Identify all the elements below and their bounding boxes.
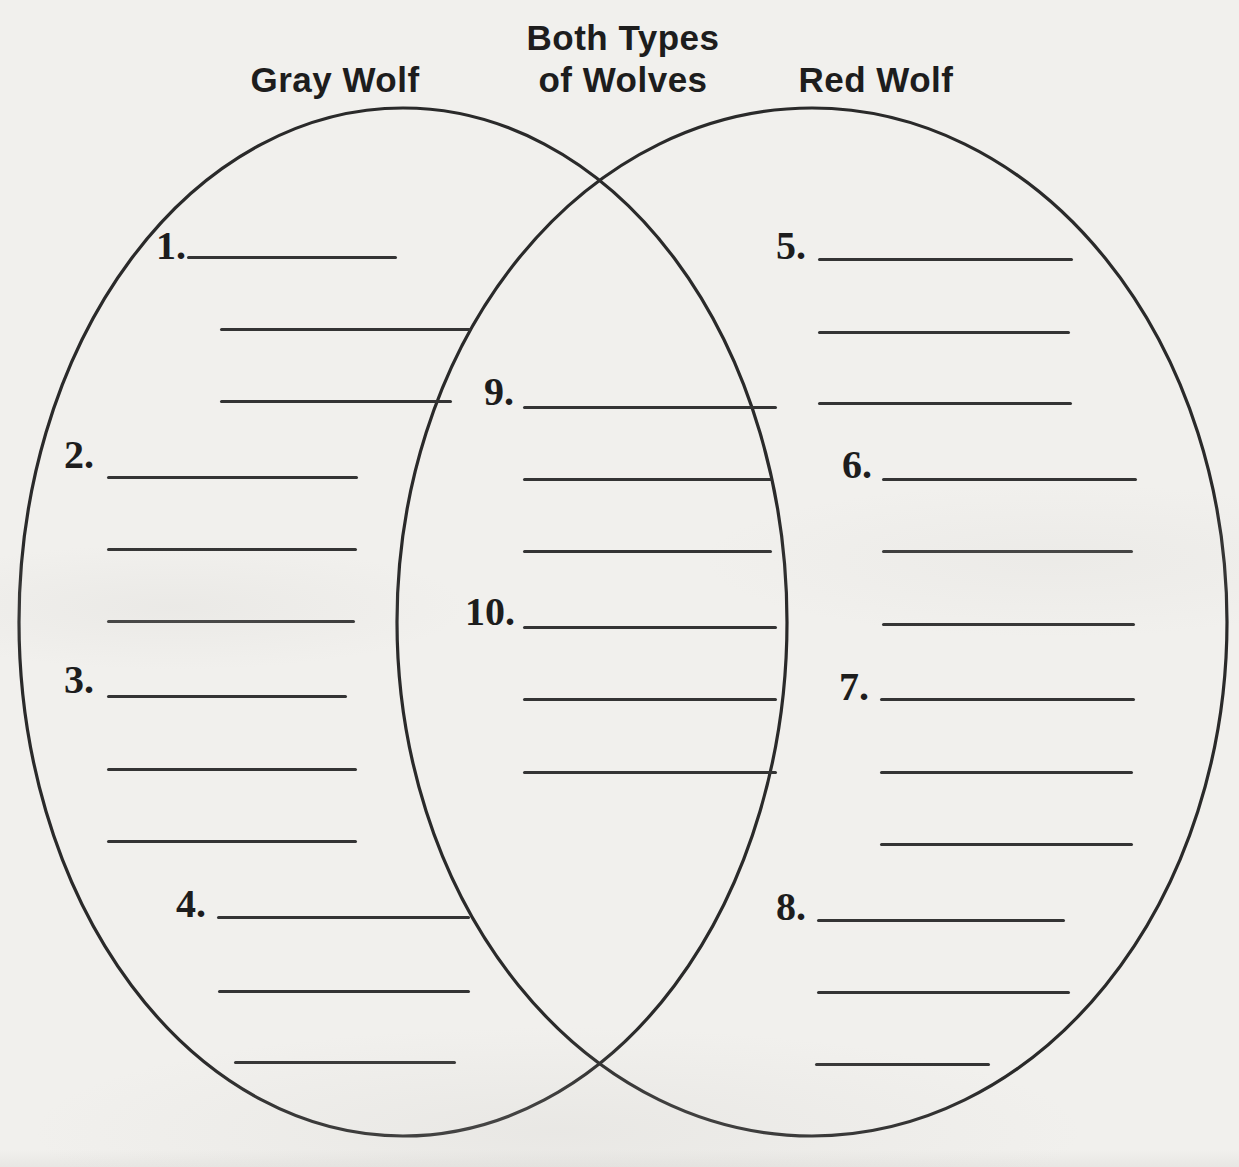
both-types-label-line2: of Wolves — [527, 59, 720, 101]
answer-line — [107, 840, 357, 843]
answer-line — [523, 771, 777, 774]
answer-line — [818, 258, 1073, 261]
red-wolf-ellipse — [397, 108, 1227, 1136]
item-number-5: 5. — [776, 226, 806, 266]
answer-line — [818, 402, 1072, 405]
worksheet-page: Gray Wolf Both Types of Wolves Red Wolf … — [0, 0, 1239, 1167]
answer-line — [187, 256, 397, 259]
both-types-label: Both Types of Wolves — [527, 17, 720, 101]
item-number-4: 4. — [176, 884, 206, 924]
answer-line — [523, 406, 777, 409]
answer-line — [523, 698, 777, 701]
answer-line — [523, 550, 772, 553]
answer-line — [817, 919, 1065, 922]
answer-line — [217, 916, 470, 919]
red-wolf-label: Red Wolf — [798, 59, 953, 101]
answer-line — [817, 991, 1070, 994]
gray-wolf-label: Gray Wolf — [250, 59, 419, 101]
item-number-6: 6. — [842, 445, 872, 485]
answer-line — [220, 328, 471, 331]
answer-line — [107, 768, 357, 771]
item-number-7: 7. — [839, 667, 869, 707]
answer-line — [107, 548, 357, 551]
answer-line — [107, 695, 347, 698]
answer-line — [220, 400, 452, 403]
item-number-3: 3. — [64, 660, 94, 700]
answer-line — [880, 771, 1133, 774]
answer-line — [818, 331, 1070, 334]
both-types-label-line1: Both Types — [527, 17, 720, 59]
item-number-1: 1. — [156, 226, 186, 266]
answer-line — [107, 620, 355, 623]
answer-line — [523, 626, 777, 629]
answer-line — [882, 623, 1135, 626]
answer-line — [218, 990, 470, 993]
item-number-2: 2. — [64, 435, 94, 475]
answer-line — [880, 843, 1133, 846]
item-number-9: 9. — [484, 372, 514, 412]
answer-line — [882, 550, 1133, 553]
item-number-10: 10. — [465, 592, 515, 632]
answer-line — [523, 478, 772, 481]
answer-line — [882, 478, 1137, 481]
item-number-8: 8. — [776, 887, 806, 927]
answer-line — [234, 1061, 456, 1064]
answer-line — [815, 1063, 990, 1066]
answer-line — [880, 698, 1135, 701]
answer-line — [107, 476, 358, 479]
